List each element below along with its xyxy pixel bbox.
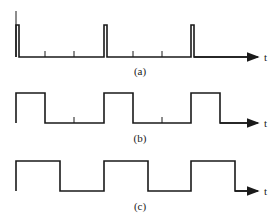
panel-a-axis-label: t — [264, 51, 267, 63]
waveform-diagram: t (a) t (b) t (c) — [0, 0, 280, 224]
panel-b-rectangular-wave — [16, 93, 254, 123]
panel-c-square-wave — [16, 161, 254, 191]
panel-c-axis-label: t — [264, 185, 267, 197]
panel-a: t (a) — [16, 11, 267, 78]
panel-b-axis-label: t — [264, 117, 267, 129]
panel-a-caption: (a) — [134, 65, 147, 78]
panel-b-caption: (b) — [134, 132, 147, 145]
panel-b: t (b) — [16, 93, 267, 145]
panel-c-caption: (c) — [134, 200, 147, 213]
panel-a-pulse-train — [16, 25, 254, 57]
panel-c: t (c) — [16, 161, 267, 213]
